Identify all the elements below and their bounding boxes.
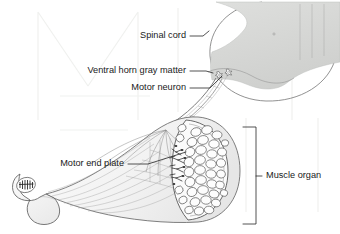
label-motor-neuron: Motor neuron (131, 82, 186, 92)
muscle-organ-bracket (243, 127, 256, 224)
label-motor-end-plate: Motor end plate (60, 158, 124, 168)
motor-unit-diagram: Spinal cord Ventral horn gray matter Mot… (0, 0, 340, 234)
label-ventral-horn-gray-matter: Ventral horn gray matter (87, 65, 186, 75)
muscle-organ (46, 117, 240, 223)
label-spinal-cord: Spinal cord (140, 30, 186, 40)
label-muscle-organ: Muscle organ (266, 170, 321, 180)
anatomical-figure: Spinal cord Ventral horn gray matter Mot… (0, 0, 340, 234)
gray-matter-shape (211, 2, 340, 89)
spinal-cord-cross-section (208, 2, 340, 101)
bone-with-marrow (13, 174, 60, 225)
leader-spinal-cord (190, 31, 209, 36)
